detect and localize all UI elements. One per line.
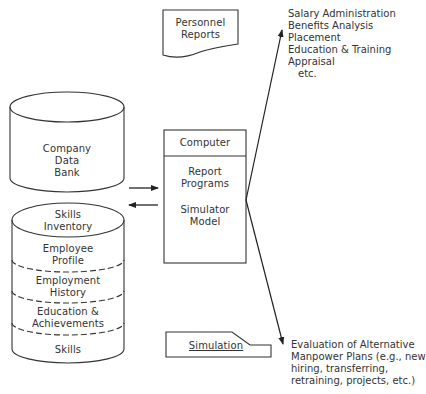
computer-simulator-model: Simulator Model bbox=[164, 204, 246, 228]
layer-employment-history-line2: History bbox=[12, 287, 124, 299]
layer-skills: Skills bbox=[12, 344, 124, 356]
bottom-output-line2: Manpower Plans (e.g., new bbox=[291, 351, 426, 363]
computer-header: Computer bbox=[164, 137, 246, 149]
layer-employee-profile: Employee Profile bbox=[12, 243, 124, 267]
skills-inventory-title: Skills Inventory bbox=[12, 209, 124, 233]
layer-skills-line1: Skills bbox=[12, 344, 124, 356]
arrow-to-top-outputs bbox=[246, 30, 282, 200]
output-salary-administration: Salary Administration bbox=[288, 8, 396, 20]
layer-employee-profile-line1: Employee bbox=[12, 243, 124, 255]
layer-employee-profile-line2: Profile bbox=[12, 255, 124, 267]
simulation-label: Simulation bbox=[181, 340, 251, 352]
output-appraisal: Appraisal bbox=[288, 56, 396, 68]
skills-inventory-title-line2: Inventory bbox=[12, 221, 124, 233]
bottom-output-line4: retraining, projects, etc.) bbox=[291, 375, 426, 387]
layer-education-achievements-line1: Education & bbox=[12, 306, 124, 318]
personnel-reports-line2: Reports bbox=[163, 29, 238, 41]
simulator-model-line2: Model bbox=[164, 216, 246, 228]
output-education-training: Education & Training bbox=[288, 44, 396, 56]
personnel-reports-label: Personnel Reports bbox=[163, 17, 238, 41]
bottom-output-line3: hiring, transferring, bbox=[291, 363, 426, 375]
output-placement: Placement bbox=[288, 32, 396, 44]
computer-box bbox=[164, 130, 246, 263]
company-data-bank-line1: Company bbox=[10, 143, 124, 155]
computer-report-programs: Report Programs bbox=[164, 166, 246, 190]
layer-education-achievements: Education & Achievements bbox=[12, 306, 124, 330]
report-programs-line1: Report bbox=[164, 166, 246, 178]
layer-employment-history: Employment History bbox=[12, 275, 124, 299]
output-benefits-analysis: Benefits Analysis bbox=[288, 20, 396, 32]
arrow-to-bottom-outputs bbox=[246, 200, 283, 344]
top-outputs-list: Salary Administration Benefits Analysis … bbox=[288, 8, 396, 80]
company-data-bank-line3: Bank bbox=[10, 167, 124, 179]
layer-employment-history-line1: Employment bbox=[12, 275, 124, 287]
simulator-model-line1: Simulator bbox=[164, 204, 246, 216]
bottom-output-line1: Evaluation of Alternative bbox=[291, 339, 426, 351]
company-data-bank-label: Company Data Bank bbox=[10, 143, 124, 179]
report-programs-line2: Programs bbox=[164, 178, 246, 190]
personnel-reports-line1: Personnel bbox=[163, 17, 238, 29]
company-data-bank-line2: Data bbox=[10, 155, 124, 167]
layer-education-achievements-line2: Achievements bbox=[12, 318, 124, 330]
bottom-outputs-text: Evaluation of Alternative Manpower Plans… bbox=[291, 339, 426, 387]
output-etc: etc. bbox=[288, 68, 396, 80]
skills-inventory-title-line1: Skills bbox=[12, 209, 124, 221]
